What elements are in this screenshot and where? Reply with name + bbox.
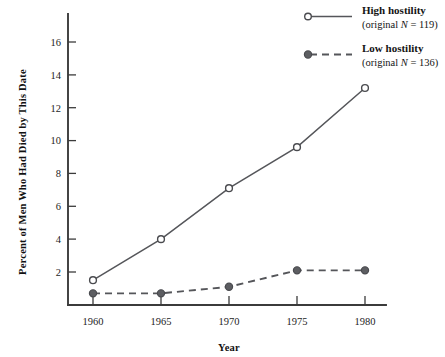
y-tick-label-12: 12 <box>51 103 62 114</box>
y-tick-label-14: 14 <box>51 70 62 81</box>
legend-sub-prefix-low: (original <box>362 57 401 69</box>
x-axis-title: Year <box>218 342 240 353</box>
legend-sub-prefix-high: (original <box>362 19 401 31</box>
y-axis-title: Percent of Men Who Had Died by This Date <box>17 69 28 275</box>
legend-item-high-hostility[interactable]: High hostility (original N = 119) <box>305 4 439 31</box>
x-axis-ticks <box>93 296 365 305</box>
data-point-high-hostility-1975 <box>294 144 301 151</box>
legend-item-low-hostility[interactable]: Low hostility (original N = 136) <box>304 42 438 69</box>
line-chart: 16 14 12 10 8 6 4 2 1960 1965 1970 1975 … <box>0 0 445 357</box>
data-point-high-hostility-1970 <box>226 185 233 192</box>
x-tick-label-1960: 1960 <box>83 316 104 327</box>
legend-sublabel-high-hostility: (original N = 119) <box>362 19 438 31</box>
legend-marker-filled-circle-icon <box>304 51 311 58</box>
legend-sub-suffix-low: = 136) <box>408 57 439 69</box>
data-point-low-hostility-1970 <box>225 283 232 290</box>
legend: High hostility (original N = 119) Low ho… <box>304 4 438 69</box>
data-point-high-hostility-1960 <box>90 277 97 284</box>
series-markers-high-hostility <box>90 85 369 284</box>
data-point-low-hostility-1980 <box>361 267 368 274</box>
legend-marker-open-circle-icon <box>305 13 312 20</box>
x-axis-tick-labels: 1960 1965 1970 1975 1980 <box>83 316 376 327</box>
chart-container: 16 14 12 10 8 6 4 2 1960 1965 1970 1975 … <box>0 0 445 357</box>
series-line-high-hostility <box>93 88 365 280</box>
data-point-high-hostility-1965 <box>158 236 165 243</box>
y-tick-label-6: 6 <box>56 201 61 212</box>
y-tick-label-4: 4 <box>56 234 62 245</box>
data-point-low-hostility-1975 <box>293 267 300 274</box>
y-tick-label-16: 16 <box>51 37 62 48</box>
data-point-low-hostility-1965 <box>157 290 164 297</box>
x-tick-label-1980: 1980 <box>355 316 376 327</box>
data-point-high-hostility-1980 <box>362 85 369 92</box>
legend-label-high-hostility: High hostility <box>362 4 426 16</box>
x-tick-label-1965: 1965 <box>151 316 172 327</box>
y-tick-label-2: 2 <box>56 267 61 278</box>
y-tick-label-8: 8 <box>56 168 61 179</box>
y-tick-label-10: 10 <box>51 135 62 146</box>
legend-label-low-hostility: Low hostility <box>362 42 424 54</box>
x-tick-label-1970: 1970 <box>219 316 240 327</box>
y-axis-tick-labels: 16 14 12 10 8 6 4 2 <box>51 37 62 278</box>
legend-sublabel-low-hostility: (original N = 136) <box>362 57 439 69</box>
y-axis-ticks <box>68 42 76 272</box>
x-tick-label-1975: 1975 <box>287 316 308 327</box>
data-point-low-hostility-1960 <box>89 290 96 297</box>
legend-sub-suffix-high: = 119) <box>408 19 439 31</box>
